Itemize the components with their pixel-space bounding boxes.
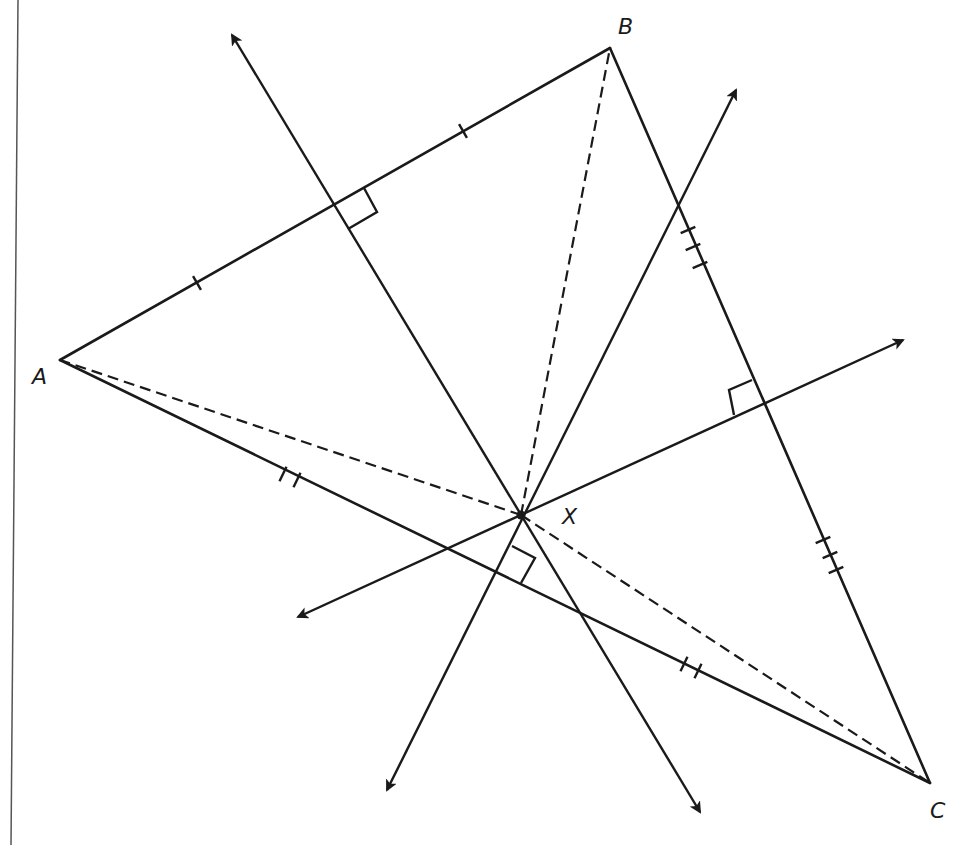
- side-ab: [60, 48, 610, 360]
- diagram-canvas: [0, 0, 967, 845]
- side-bc: [610, 48, 930, 783]
- dashed-segment-xb: [521, 48, 610, 515]
- dashed-segments: [60, 48, 930, 783]
- circumcenter-label-x: X: [562, 506, 577, 528]
- vertex-label-c: C: [930, 800, 945, 822]
- bisector-BC-line: [298, 340, 903, 617]
- congruence-ticks: [193, 124, 843, 678]
- vertex-label-b: B: [618, 16, 633, 38]
- dashed-segment-xa: [60, 360, 521, 515]
- right-angle-mark: [512, 546, 535, 583]
- side-ca: [60, 360, 930, 783]
- page-border-line: [11, 0, 18, 845]
- circumcenter-point: [517, 511, 526, 520]
- dashed-segment-xc: [521, 515, 930, 783]
- triangle-sides: [60, 48, 930, 783]
- vertex-label-a: A: [32, 366, 47, 388]
- perpendicular-bisectors: [232, 35, 903, 812]
- bisector-AB-line: [232, 35, 700, 812]
